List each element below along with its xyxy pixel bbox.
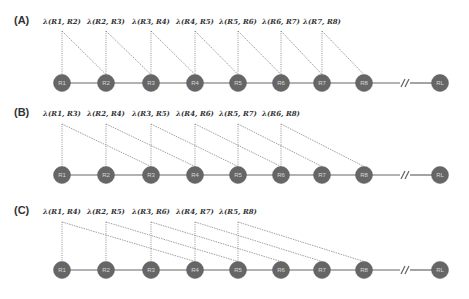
diagonal-connector bbox=[238, 222, 364, 262]
break-mark-icon bbox=[405, 79, 409, 87]
node-label: R3 bbox=[147, 172, 155, 178]
node-r3: R3 bbox=[143, 262, 160, 279]
node-label: R4 bbox=[191, 172, 199, 178]
diagonal-connector bbox=[195, 222, 322, 262]
node-label: R7 bbox=[318, 172, 326, 178]
node-r8: R8 bbox=[356, 167, 373, 184]
panel-label: (B) bbox=[14, 106, 30, 118]
interaction-label: λ(R2, R3) bbox=[86, 17, 125, 26]
interaction-label: λ(R5, R7) bbox=[218, 109, 257, 118]
interaction-label: λ(R3, R4) bbox=[131, 17, 170, 26]
diagonal-connector bbox=[62, 222, 195, 262]
diagonal-connector bbox=[238, 31, 281, 75]
panel-a: (A)λ(R1, R2)λ(R2, R3)λ(R3, R4)λ(R4, R5)λ… bbox=[14, 14, 449, 92]
node-r5: R5 bbox=[230, 262, 247, 279]
interaction-label: λ(R1, R2) bbox=[42, 17, 81, 26]
node-label: R1 bbox=[58, 267, 66, 273]
interaction-label: λ(R4, R7) bbox=[175, 207, 214, 216]
node-r6: R6 bbox=[273, 262, 290, 279]
interaction-label: λ(R6, R8) bbox=[261, 109, 300, 118]
interaction-label: λ(R7, R8) bbox=[302, 17, 341, 26]
node-label: R8 bbox=[360, 80, 368, 86]
node-r7: R7 bbox=[314, 167, 331, 184]
node-r6: R6 bbox=[273, 167, 290, 184]
panel-label: (C) bbox=[14, 204, 30, 216]
diagonal-connector bbox=[195, 31, 238, 75]
interaction-label: λ(R6, R7) bbox=[261, 17, 300, 26]
break-mark-icon bbox=[401, 266, 405, 274]
interaction-label: λ(R3, R6) bbox=[131, 207, 170, 216]
pairwise-interaction-diagram: (A)λ(R1, R2)λ(R2, R3)λ(R3, R4)λ(R4, R5)λ… bbox=[0, 0, 469, 299]
node-r5: R5 bbox=[230, 75, 247, 92]
node-label: R5 bbox=[234, 267, 242, 273]
node-label: R6 bbox=[277, 267, 285, 273]
node-r3: R3 bbox=[143, 167, 160, 184]
node-label: R4 bbox=[191, 80, 199, 86]
node-rl: RL bbox=[432, 75, 449, 92]
node-r1: R1 bbox=[54, 167, 71, 184]
node-r4: R4 bbox=[187, 262, 204, 279]
interaction-label: λ(R1, R4) bbox=[42, 207, 81, 216]
node-r8: R8 bbox=[356, 262, 373, 279]
panel-b: (B)λ(R1, R3)λ(R2, R4)λ(R3, R5)λ(R4, R6)λ… bbox=[14, 106, 449, 184]
interaction-label: λ(R3, R5) bbox=[131, 109, 170, 118]
break-mark-icon bbox=[401, 171, 405, 179]
diagonal-connector bbox=[62, 124, 151, 167]
panel-label: (A) bbox=[14, 14, 30, 26]
node-r1: R1 bbox=[54, 75, 71, 92]
diagonal-connector bbox=[281, 31, 322, 75]
break-mark-icon bbox=[401, 79, 405, 87]
diagonal-connector bbox=[238, 124, 322, 167]
node-label: RL bbox=[436, 172, 444, 178]
node-label: R5 bbox=[234, 80, 242, 86]
diagonal-connector bbox=[62, 31, 106, 75]
interaction-label: λ(R4, R6) bbox=[175, 109, 214, 118]
diagonal-connector bbox=[281, 124, 364, 167]
node-label: R6 bbox=[277, 80, 285, 86]
diagonal-connector bbox=[151, 31, 195, 75]
node-label: R7 bbox=[318, 80, 326, 86]
diagonal-connector bbox=[151, 222, 281, 262]
node-r6: R6 bbox=[273, 75, 290, 92]
interaction-label: λ(R5, R6) bbox=[218, 17, 257, 26]
diagonal-connector bbox=[106, 31, 151, 75]
interaction-label: λ(R2, R5) bbox=[86, 207, 125, 216]
node-r7: R7 bbox=[314, 75, 331, 92]
interaction-label: λ(R5, R8) bbox=[218, 207, 257, 216]
node-label: RL bbox=[436, 80, 444, 86]
node-label: R7 bbox=[318, 267, 326, 273]
node-label: R8 bbox=[360, 172, 368, 178]
node-label: R3 bbox=[147, 267, 155, 273]
node-rl: RL bbox=[432, 167, 449, 184]
node-label: RL bbox=[436, 267, 444, 273]
node-label: R6 bbox=[277, 172, 285, 178]
node-label: R1 bbox=[58, 172, 66, 178]
node-rl: RL bbox=[432, 262, 449, 279]
node-r2: R2 bbox=[98, 262, 115, 279]
node-r7: R7 bbox=[314, 262, 331, 279]
diagonal-connector bbox=[151, 124, 238, 167]
break-mark-icon bbox=[405, 266, 409, 274]
panel-c: (C)λ(R1, R4)λ(R2, R5)λ(R3, R6)λ(R4, R7)λ… bbox=[14, 204, 449, 279]
node-r1: R1 bbox=[54, 262, 71, 279]
node-label: R4 bbox=[191, 267, 199, 273]
diagonal-connector bbox=[322, 31, 364, 75]
node-label: R8 bbox=[360, 267, 368, 273]
node-label: R5 bbox=[234, 172, 242, 178]
node-label: R2 bbox=[102, 172, 110, 178]
node-label: R3 bbox=[147, 80, 155, 86]
node-r3: R3 bbox=[143, 75, 160, 92]
diagonal-connector bbox=[106, 222, 238, 262]
interaction-label: λ(R1, R3) bbox=[42, 109, 81, 118]
node-r8: R8 bbox=[356, 75, 373, 92]
interaction-label: λ(R2, R4) bbox=[86, 109, 125, 118]
node-r2: R2 bbox=[98, 167, 115, 184]
node-label: R1 bbox=[58, 80, 66, 86]
node-label: R2 bbox=[102, 267, 110, 273]
break-mark-icon bbox=[405, 171, 409, 179]
interaction-label: λ(R4, R5) bbox=[175, 17, 214, 26]
node-r5: R5 bbox=[230, 167, 247, 184]
node-r4: R4 bbox=[187, 167, 204, 184]
node-r4: R4 bbox=[187, 75, 204, 92]
node-label: R2 bbox=[102, 80, 110, 86]
